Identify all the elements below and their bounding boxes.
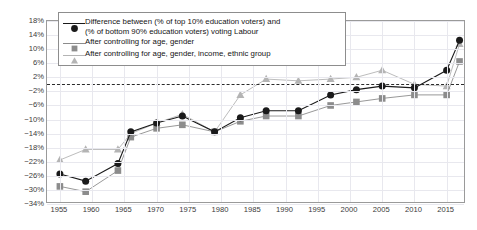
legend-label-difference-line1: Difference between (% of top 10% educati…: [85, 17, 280, 26]
gridline-horizontal: [47, 148, 464, 149]
circle-marker-icon: [63, 18, 85, 28]
data-point: [82, 178, 89, 185]
y-axis-tick-label: 10%: [0, 44, 44, 53]
gridline-horizontal: [47, 91, 464, 92]
data-point: [262, 75, 270, 82]
data-point: [353, 99, 360, 106]
data-point: [115, 167, 122, 174]
zero-reference-line: [47, 84, 464, 85]
triangle-marker-icon: [63, 50, 85, 60]
gridline-horizontal: [47, 176, 464, 177]
gridline-horizontal: [47, 190, 464, 191]
data-point: [179, 122, 186, 129]
y-axis-tick-label: 2%: [0, 72, 44, 81]
y-axis-tick-label: −34%: [0, 199, 44, 208]
data-point: [327, 91, 334, 98]
gridline-vertical: [350, 21, 351, 202]
data-point: [263, 107, 270, 114]
gridline-vertical: [414, 21, 415, 202]
legend-item-age-gender-income-ethnic: After controlling for age, gender, incom…: [63, 49, 340, 60]
x-axis-tick-label: 2015: [426, 205, 466, 214]
gridline-vertical: [447, 21, 448, 202]
y-axis-tick-label: −10%: [0, 115, 44, 124]
y-axis-tick-label: −26%: [0, 171, 44, 180]
legend: Difference between (% of top 10% educati…: [58, 12, 346, 66]
gridline-horizontal: [47, 105, 464, 106]
y-axis-tick-label: −18%: [0, 143, 44, 152]
legend-label-difference: Difference between (% of top 10% educati…: [85, 17, 280, 36]
y-axis-tick-label: −2%: [0, 86, 44, 95]
gridline-vertical: [382, 21, 383, 202]
gridline-horizontal: [47, 162, 464, 163]
education-labour-vote-gap-chart: 18%14%10%6%2%−2%−6%−10%−14%−18%−22%−26%−…: [0, 0, 477, 230]
square-marker-icon: [63, 38, 85, 48]
y-axis-tick-label: −14%: [0, 129, 44, 138]
y-axis-tick-label: −6%: [0, 100, 44, 109]
y-axis-tick-label: −30%: [0, 185, 44, 194]
legend-label-age-gender-income-ethnic: After controlling for age, gender, incom…: [85, 49, 271, 59]
legend-item-difference: Difference between (% of top 10% educati…: [63, 17, 340, 36]
data-point: [456, 37, 463, 44]
legend-label-age-gender: After controlling for age, gender: [85, 37, 194, 47]
gridline-horizontal: [47, 120, 464, 121]
data-point: [295, 107, 302, 114]
data-point: [179, 113, 186, 120]
gridline-horizontal: [47, 77, 464, 78]
y-axis-tick-label: −22%: [0, 157, 44, 166]
legend-label-difference-line2: (% of bottom 90% education voters) votin…: [85, 27, 280, 37]
y-axis-tick-label: 18%: [0, 16, 44, 25]
y-axis-tick-label: 14%: [0, 30, 44, 39]
gridline-horizontal: [47, 134, 464, 135]
gridline-horizontal: [47, 204, 464, 205]
legend-item-age-gender: After controlling for age, gender: [63, 37, 340, 48]
data-point: [82, 145, 90, 152]
y-axis-tick-label: 6%: [0, 58, 44, 67]
